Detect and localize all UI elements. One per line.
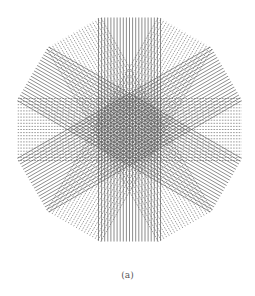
- line-pattern-figure: [0, 0, 255, 260]
- line-family-90deg: [99, 0, 161, 260]
- figure-caption: (a): [0, 270, 255, 280]
- line-families: [0, 0, 255, 260]
